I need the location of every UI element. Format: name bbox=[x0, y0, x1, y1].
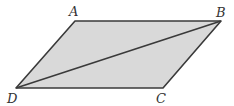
vertex-label-b: B bbox=[215, 5, 226, 20]
vertex-label-d: D bbox=[6, 91, 18, 106]
vertex-label-c: C bbox=[156, 91, 166, 106]
parallelogram-diagram: A B C D bbox=[0, 0, 234, 106]
vertex-label-a: A bbox=[68, 4, 78, 19]
